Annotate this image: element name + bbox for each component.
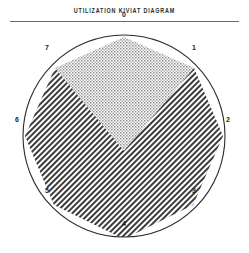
axis-label-3: 3 — [188, 186, 200, 194]
axis-label-4: 4 — [118, 219, 130, 227]
axis-label-6: 6 — [11, 115, 23, 123]
kiviat-diagram-page: UTILIZATION KIVIAT DIAGRAM — [0, 0, 249, 253]
axis-label-1: 1 — [188, 43, 200, 51]
axis-label-2: 2 — [222, 115, 234, 123]
plot-area: 0 1 2 3 4 5 6 7 — [0, 24, 249, 253]
title-divider — [10, 21, 239, 22]
axis-label-7: 7 — [41, 43, 53, 51]
axis-label-5: 5 — [41, 186, 53, 194]
axis-label-0: 0 — [118, 10, 130, 18]
